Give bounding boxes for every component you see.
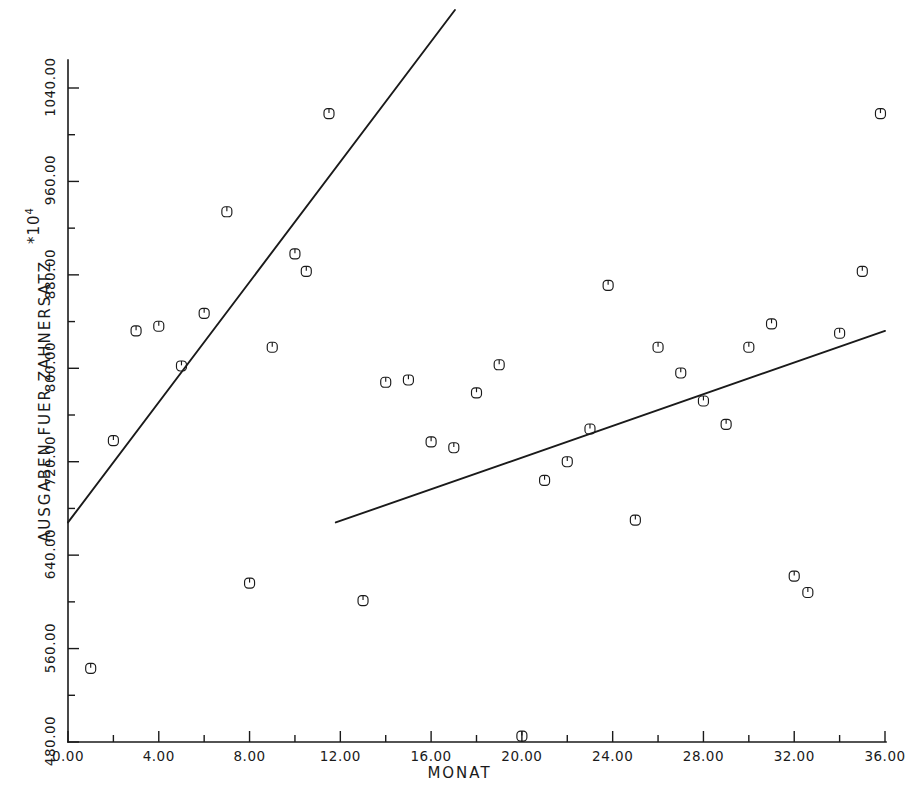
- data-point: [472, 388, 482, 398]
- data-point: [789, 571, 799, 581]
- data-point: [767, 319, 777, 329]
- x-tick-label: 12.00: [305, 748, 375, 764]
- data-point: [603, 280, 613, 290]
- data-points: [86, 109, 886, 741]
- y-axis-ticks: [68, 88, 79, 742]
- x-tick-label: 20.00: [487, 748, 557, 764]
- x-tick-label: 8.00: [215, 748, 285, 764]
- exponent-base: *10: [25, 214, 43, 244]
- data-point: [676, 368, 686, 378]
- x-axis-ticks: [68, 731, 885, 742]
- trend-segment-early: [68, 10, 455, 522]
- data-point: [540, 475, 550, 485]
- data-point: [324, 109, 334, 119]
- trend-lines: [68, 10, 885, 522]
- chart-canvas: AUSGABEN FUER ZAHNERSATZ MONAT *104 480.…: [0, 0, 919, 802]
- x-tick-label: 24.00: [578, 748, 648, 764]
- data-point: [744, 342, 754, 352]
- data-point: [86, 663, 96, 673]
- data-point: [290, 249, 300, 259]
- data-point: [653, 342, 663, 352]
- data-point: [721, 419, 731, 429]
- trend-segment-late: [336, 331, 885, 523]
- data-point: [381, 377, 391, 387]
- data-point: [108, 436, 118, 446]
- data-point: [803, 588, 813, 598]
- x-tick-label: 16.00: [396, 748, 466, 764]
- data-point: [426, 437, 436, 447]
- y-tick-label: 800.00: [42, 331, 58, 403]
- x-tick-label: 36.00: [850, 748, 919, 764]
- y-tick-label: 480.00: [42, 705, 58, 777]
- data-point: [131, 326, 141, 336]
- x-axis-title: MONAT: [0, 764, 919, 782]
- data-point: [267, 342, 277, 352]
- scatter-plot-svg: [0, 0, 919, 802]
- y-axis-exponent-note: *104: [24, 191, 43, 261]
- y-tick-label: 720.00: [42, 425, 58, 497]
- data-point: [245, 578, 255, 588]
- x-tick-label: 4.00: [124, 748, 194, 764]
- y-tick-label: 560.00: [42, 612, 58, 684]
- y-tick-label: 640.00: [42, 518, 58, 590]
- data-point: [494, 360, 504, 370]
- data-point: [875, 109, 885, 119]
- axis-lines: [68, 60, 886, 742]
- data-point: [301, 266, 311, 276]
- y-tick-label: 960.00: [42, 144, 58, 216]
- data-point: [154, 321, 164, 331]
- data-point: [403, 375, 413, 385]
- data-point: [562, 457, 572, 467]
- data-point: [835, 328, 845, 338]
- data-point: [857, 266, 867, 276]
- y-tick-label: 1040.00: [42, 51, 58, 123]
- data-point: [630, 515, 640, 525]
- x-tick-label: 32.00: [759, 748, 829, 764]
- data-point: [358, 596, 368, 606]
- data-point: [222, 207, 232, 217]
- y-tick-label: 880.00: [42, 238, 58, 310]
- x-tick-label: 28.00: [668, 748, 738, 764]
- x-tick-label: 0.00: [33, 748, 103, 764]
- data-point: [449, 443, 459, 453]
- exponent-power: 4: [24, 207, 35, 214]
- data-point: [698, 396, 708, 406]
- data-point: [199, 308, 209, 318]
